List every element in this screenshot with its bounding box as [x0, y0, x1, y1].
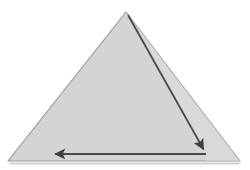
- triangle-path-diagram-svg: [0, 0, 250, 170]
- base-shadow: [9, 162, 241, 164]
- figure-canvas: [0, 0, 250, 170]
